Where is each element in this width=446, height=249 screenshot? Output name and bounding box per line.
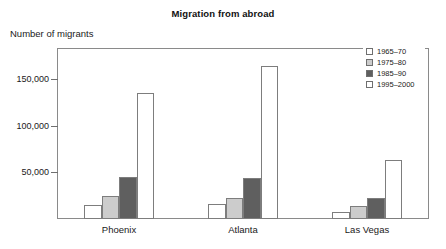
legend-item: 1965–70 xyxy=(366,46,425,56)
legend-item-label: 1965–70 xyxy=(377,47,406,56)
bar xyxy=(261,66,279,219)
legend-swatch-icon xyxy=(366,59,373,66)
legend-item: 1975–80 xyxy=(366,57,425,67)
legend-swatch-icon xyxy=(366,70,373,77)
bar xyxy=(367,198,385,219)
bar xyxy=(385,160,403,219)
legend-item-label: 1985–90 xyxy=(377,69,406,78)
bar xyxy=(350,206,368,219)
bar xyxy=(226,198,244,219)
bar xyxy=(84,205,102,219)
legend-item: 1985–90 xyxy=(366,68,425,78)
bar xyxy=(137,93,155,219)
chart-container: Migration from abroad Number of migrants… xyxy=(0,0,446,249)
y-tick-label: 100,000 xyxy=(2,121,49,131)
bar xyxy=(102,196,120,219)
y-tick-label: 50,000 xyxy=(2,167,49,177)
x-axis-category-label: Phoenix xyxy=(102,224,136,235)
y-axis-label: Number of migrants xyxy=(10,28,93,39)
x-axis-category-label: Las Vegas xyxy=(345,224,389,235)
bar xyxy=(243,178,261,219)
legend-item: 1995–2000 xyxy=(366,79,425,89)
legend-item-label: 1995–2000 xyxy=(377,80,415,89)
x-axis-category-label: Atlanta xyxy=(228,224,258,235)
bar xyxy=(119,177,137,219)
bar xyxy=(208,204,226,219)
chart-legend: 1965–701975–801985–901995–2000 xyxy=(363,44,425,92)
legend-item-label: 1975–80 xyxy=(377,58,406,67)
chart-title: Migration from abroad xyxy=(0,8,446,19)
legend-swatch-icon xyxy=(366,48,373,55)
y-tick-label: 150,000 xyxy=(2,74,49,84)
bar xyxy=(332,212,350,219)
legend-swatch-icon xyxy=(366,81,373,88)
